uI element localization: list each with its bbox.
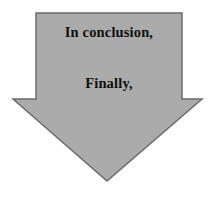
down-arrow-icon	[13, 13, 202, 181]
arrow-callout-figure: In conclusion, Finally,	[0, 0, 213, 197]
down-arrow-shape	[0, 0, 213, 197]
